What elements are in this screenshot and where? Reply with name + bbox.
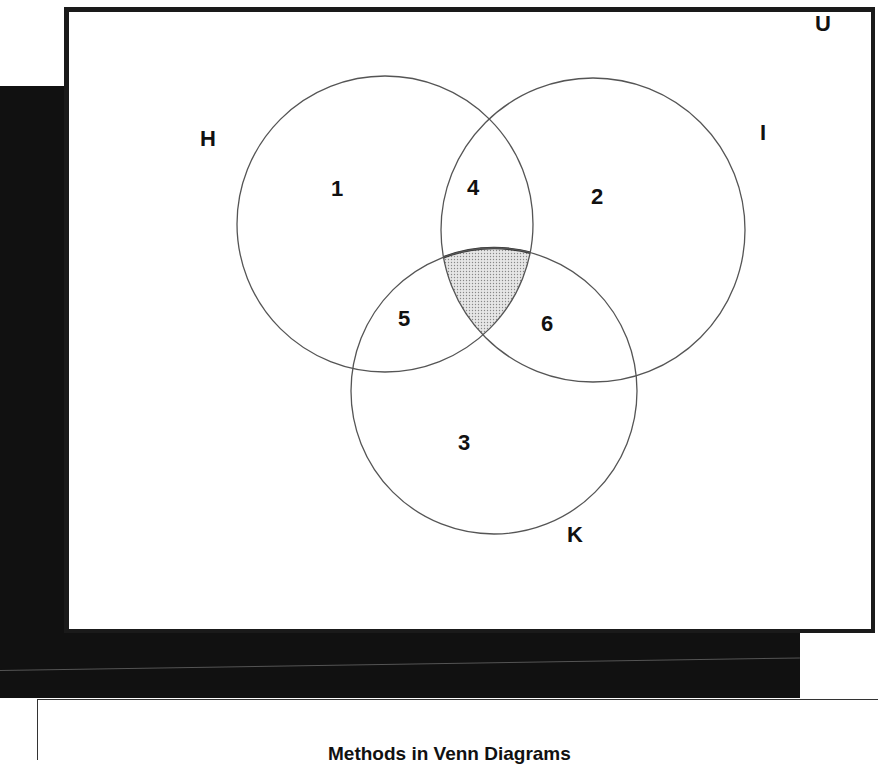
set-label-h: H bbox=[200, 126, 216, 151]
region-label-3: 3 bbox=[458, 430, 470, 455]
region-label-6: 6 bbox=[541, 311, 553, 336]
region-label-1: 1 bbox=[331, 176, 343, 201]
circle-i bbox=[441, 78, 745, 382]
region-label-2: 2 bbox=[591, 184, 603, 209]
set-label-k: K bbox=[567, 522, 583, 547]
universe-label: U bbox=[815, 11, 831, 36]
region-label-4: 4 bbox=[467, 175, 480, 200]
caption-text: Methods in Venn Diagrams bbox=[328, 743, 571, 765]
shaded-region-triple bbox=[351, 248, 637, 534]
region-label-5: 5 bbox=[398, 306, 410, 331]
set-label-i: I bbox=[760, 120, 766, 145]
caption-panel: Methods in Venn Diagrams bbox=[37, 699, 878, 760]
